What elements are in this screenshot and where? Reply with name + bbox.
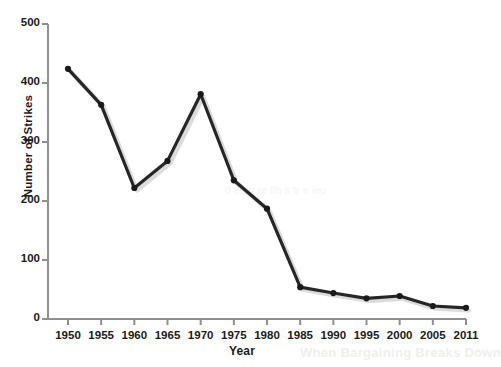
data-point-markers <box>65 66 469 311</box>
y-tick-label: 300 <box>2 134 40 146</box>
y-tick-label: 0 <box>2 311 40 323</box>
x-tick-label: 2011 <box>441 329 491 341</box>
y-axis-title: Number of Strikes <box>22 86 34 206</box>
data-series-line <box>68 69 469 310</box>
y-tick-label: 400 <box>2 75 40 87</box>
x-axis-title: Year <box>0 344 484 358</box>
y-tick-label: 500 <box>2 16 40 28</box>
chart-axes <box>42 24 466 325</box>
y-tick-label: 200 <box>2 193 40 205</box>
y-tick-label: 100 <box>2 252 40 264</box>
